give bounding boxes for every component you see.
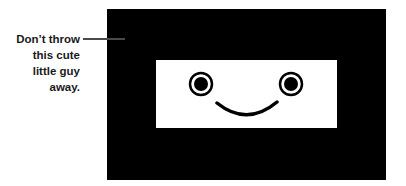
callout-line: Don’t throw bbox=[0, 31, 80, 47]
smile-icon bbox=[217, 102, 277, 115]
right-eye-icon bbox=[280, 73, 302, 95]
smiley-face-icon bbox=[156, 60, 337, 128]
left-eye-icon bbox=[190, 73, 212, 95]
callout-line: little guy bbox=[0, 63, 80, 79]
callout-line: this cute bbox=[0, 47, 80, 63]
callout-line: away. bbox=[0, 79, 80, 95]
device-screen bbox=[156, 60, 337, 128]
callout-text: Don’t throw this cute little guy away. bbox=[0, 31, 80, 95]
callout-leader-line bbox=[83, 38, 125, 40]
